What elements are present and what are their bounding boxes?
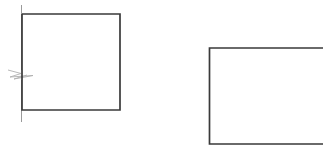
drawing-canvas (0, 0, 323, 151)
drawing-svg (0, 0, 323, 151)
canvas-background (0, 0, 323, 151)
